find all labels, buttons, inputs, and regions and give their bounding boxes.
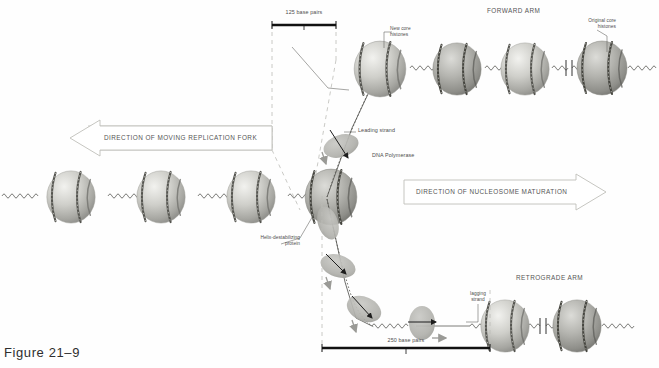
dna-polymerase-group	[313, 130, 436, 340]
dna-polymerase-3	[317, 250, 358, 282]
figure-caption: Figure 21–9	[4, 345, 80, 360]
figure-canvas: 125 base pairs 250 base pairs FORWARD AR…	[0, 0, 659, 368]
scale-bar-bottom	[322, 344, 490, 354]
dna-polymerase-5	[408, 306, 436, 340]
direction-label-replication-fork: DIRECTION OF MOVING REPLICATION FORK	[104, 134, 257, 141]
retrograde-arm-title: RETROGRADE ARM	[516, 274, 583, 281]
dna-polymerase-1	[320, 130, 361, 162]
label-dna-polymerase: DNA Polymerase	[372, 152, 414, 158]
direction-label-nucleosome-maturation: DIRECTION OF NUCLEOSOME MATURATION	[416, 188, 567, 195]
scale-label-250bp: 250 base pairs	[356, 337, 456, 343]
scale-label-125bp: 125 base pairs	[254, 9, 354, 15]
label-leading-strand: Leading strand	[358, 127, 395, 133]
parental-nucleosomes	[47, 169, 357, 225]
label-original-core-histones: Original core histones	[556, 18, 616, 29]
scale-bar-top	[272, 21, 336, 30]
retrograde-arm-nucleosomes	[481, 300, 601, 352]
break-mark-forward	[566, 60, 572, 76]
forward-arm-nucleosomes	[354, 41, 627, 97]
label-lagging-strand: lagging strand	[459, 291, 497, 302]
diagram-graphics	[0, 0, 659, 368]
break-mark-retrograde	[540, 318, 546, 334]
label-new-core-histones: New core histones	[390, 26, 411, 37]
label-helix-destabilizing-protein: Helix-destabilizing protein	[238, 235, 300, 246]
forward-arm-title: FORWARD ARM	[487, 7, 540, 14]
